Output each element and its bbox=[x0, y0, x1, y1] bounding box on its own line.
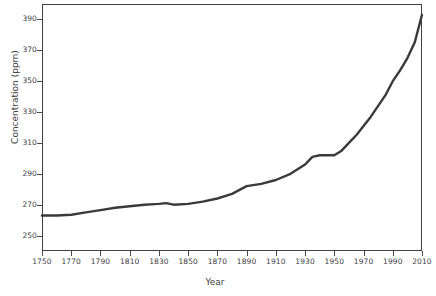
x-tick-label: 2010 bbox=[402, 258, 436, 266]
x-tick-mark bbox=[276, 251, 277, 256]
x-tick-mark bbox=[305, 251, 306, 256]
x-tick-mark bbox=[364, 251, 365, 256]
y-axis-title: Concentration (ppm) bbox=[10, 37, 20, 157]
x-tick-mark bbox=[247, 251, 248, 256]
x-axis-title: Year bbox=[0, 277, 430, 287]
x-tick-mark bbox=[159, 251, 160, 256]
y-tick-mark bbox=[37, 205, 42, 206]
y-tick-label: 310 bbox=[22, 139, 37, 147]
y-tick-mark bbox=[37, 50, 42, 51]
y-tick-mark bbox=[37, 81, 42, 82]
data-series-line bbox=[42, 15, 422, 216]
y-tick-label: 370 bbox=[22, 46, 37, 54]
y-tick-label: 290 bbox=[22, 170, 37, 178]
y-tick-mark bbox=[37, 19, 42, 20]
y-tick-mark bbox=[37, 236, 42, 237]
plot-data-layer bbox=[42, 4, 422, 251]
y-tick-mark bbox=[37, 143, 42, 144]
y-tick-label: 390 bbox=[22, 15, 37, 23]
y-tick-label: 330 bbox=[22, 108, 37, 116]
x-tick-mark bbox=[217, 251, 218, 256]
x-tick-mark bbox=[188, 251, 189, 256]
y-tick-label: 270 bbox=[22, 201, 37, 209]
x-tick-mark bbox=[42, 251, 43, 256]
y-tick-label: 350 bbox=[22, 77, 37, 85]
x-tick-mark bbox=[71, 251, 72, 256]
y-tick-mark bbox=[37, 174, 42, 175]
x-tick-mark bbox=[100, 251, 101, 256]
x-tick-mark bbox=[130, 251, 131, 256]
y-tick-label: 250 bbox=[22, 232, 37, 240]
x-tick-mark bbox=[334, 251, 335, 256]
x-tick-mark bbox=[393, 251, 394, 256]
y-tick-mark bbox=[37, 112, 42, 113]
x-tick-mark bbox=[422, 251, 423, 256]
